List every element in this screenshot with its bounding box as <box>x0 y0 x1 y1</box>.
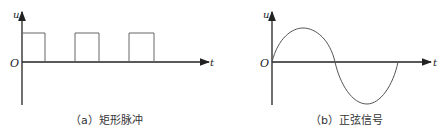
sine-waveform <box>272 28 398 104</box>
origin-label: O <box>10 57 19 70</box>
sine-signal-chart: u O t （b）正弦信号 <box>260 9 438 127</box>
caption-a: （a）矩形脉冲 <box>70 113 143 127</box>
waveform-figures: u O t （a）矩形脉冲 u O t （b）正弦信号 <box>0 0 447 133</box>
origin-label: O <box>260 57 269 70</box>
rectangular-pulse-chart: u O t （a）矩形脉冲 <box>10 9 215 127</box>
y-axis-label: u <box>13 9 19 20</box>
x-axis-label: t <box>433 57 438 68</box>
x-axis-label: t <box>210 57 215 68</box>
caption-b: （b）正弦信号 <box>310 113 383 127</box>
y-axis-label: u <box>263 9 269 20</box>
pulse-waveform <box>22 33 154 62</box>
